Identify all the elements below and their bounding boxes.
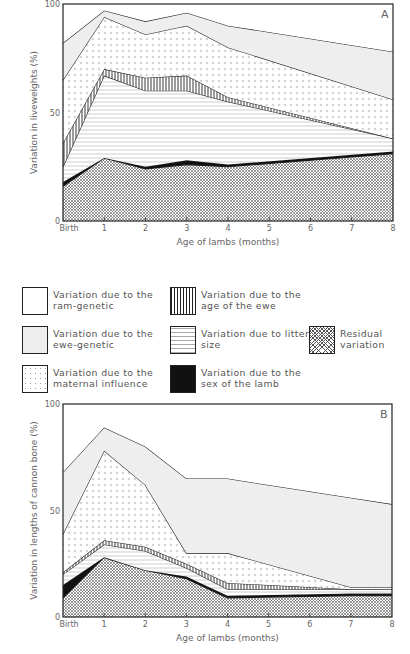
pattern-vertical-lines-icon: [170, 287, 196, 315]
pattern-crosshatch-icon: [309, 326, 335, 354]
x-tick-label: Birth: [59, 224, 78, 233]
legend-label: Residual variation: [340, 328, 410, 350]
legend-item-maternal: Variation due to the maternal influence: [22, 365, 168, 393]
legend-item-ewe-genetic: Variation due to the ewe-genetic: [22, 326, 168, 354]
pattern-lightgray-icon: [22, 326, 48, 354]
y-axis-label: Variation in liveweights (%): [29, 51, 39, 174]
y-tick-label: 100: [45, 0, 60, 9]
x-tick-label: 1: [102, 620, 107, 629]
pattern-dots-icon: [22, 365, 48, 393]
legend-label: Variation due to the ewe-genetic: [53, 328, 168, 350]
y-tick-label: 100: [45, 400, 60, 409]
x-tick-label: 8: [390, 224, 395, 233]
x-tick-label: 1: [102, 224, 107, 233]
chart-svg: Birth12345678050100Age of lambs (months)…: [0, 0, 410, 250]
y-tick-label: 0: [55, 613, 60, 622]
legend-label: Variation due to the maternal influence: [53, 367, 168, 389]
x-tick-label: 6: [308, 224, 313, 233]
legend-item-residual: Residual variation: [309, 326, 410, 354]
x-tick-label: 6: [307, 620, 312, 629]
chart-panel-a: Birth12345678050100Age of lambs (months)…: [0, 0, 410, 250]
chart-svg: Birth12345678050100Age of lambs (months)…: [0, 398, 410, 654]
legend-label: Variation due to the sex of the lamb: [201, 367, 316, 389]
x-axis-label: Age of lambs (months): [177, 237, 280, 247]
panel-label: B: [380, 408, 388, 421]
y-tick-label: 0: [55, 217, 60, 226]
x-tick-label: 5: [267, 224, 272, 233]
legend-label: Variation due to litter size: [201, 328, 316, 350]
legend-item-sex: Variation due to the sex of the lamb: [170, 365, 316, 393]
x-tick-label: 2: [143, 620, 148, 629]
y-axis-label: Variation in lengths of cannon bone (%): [29, 421, 39, 599]
x-tick-label: 3: [184, 224, 189, 233]
x-tick-label: 7: [349, 224, 354, 233]
x-tick-label: Birth: [59, 620, 78, 629]
legend-item-litter: Variation due to litter size: [170, 326, 316, 354]
pattern-solid-black-icon: [170, 365, 196, 393]
x-tick-label: 4: [225, 224, 230, 233]
legend-label: Variation due to the age of the ewe: [201, 289, 316, 311]
x-tick-label: 8: [389, 620, 394, 629]
x-tick-label: 5: [266, 620, 271, 629]
pattern-horizontal-lines-icon: [170, 326, 196, 354]
chart-panel-b: Birth12345678050100Age of lambs (months)…: [0, 398, 410, 654]
x-tick-label: 4: [225, 620, 230, 629]
y-tick-label: 50: [50, 507, 60, 516]
legend-label: Variation due to the ram-genetic: [53, 289, 168, 311]
x-tick-label: 3: [184, 620, 189, 629]
pattern-blank-icon: [22, 287, 48, 315]
x-tick-label: 7: [348, 620, 353, 629]
x-tick-label: 2: [143, 224, 148, 233]
legend: Variation due to the ram-genetic Variati…: [0, 280, 410, 400]
x-axis-label: Age of lambs (months): [176, 633, 279, 643]
legend-item-ram-genetic: Variation due to the ram-genetic: [22, 287, 168, 315]
legend-item-age-ewe: Variation due to the age of the ewe: [170, 287, 316, 315]
y-tick-label: 50: [50, 109, 60, 118]
panel-label: A: [381, 8, 389, 21]
